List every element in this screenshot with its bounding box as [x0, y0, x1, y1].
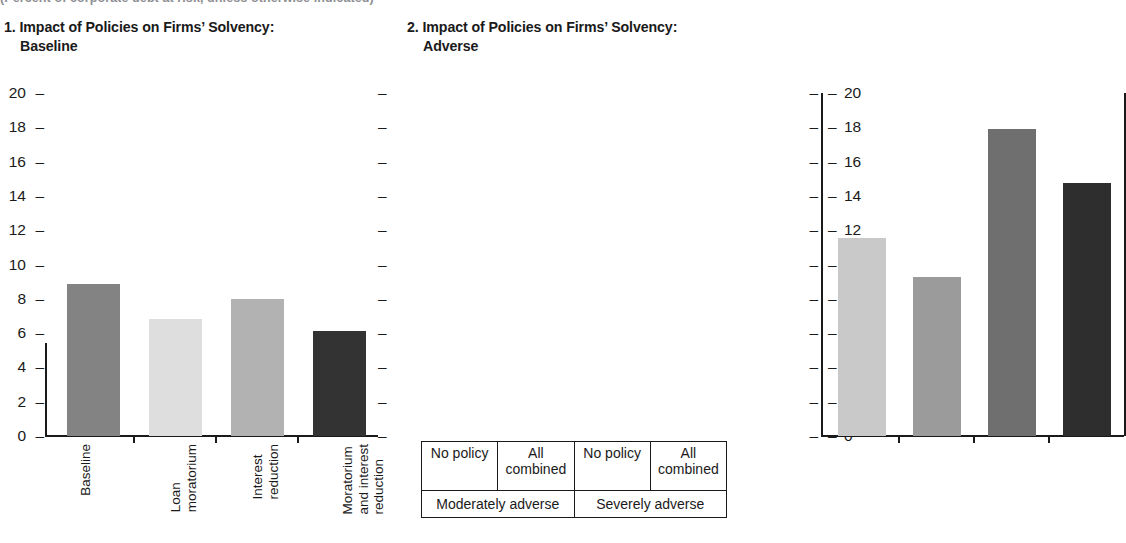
- y-tick-label: 16: [9, 154, 26, 170]
- label-table-row-categories: No policyAllcombinedNo policyAllcombined: [422, 442, 726, 490]
- y-tick-label: 4: [17, 360, 26, 376]
- label-table-category-line: All: [658, 445, 719, 461]
- y-tick-dash: –: [378, 360, 387, 376]
- y-tick-label: 12: [9, 222, 26, 238]
- y-tick-label: 20: [844, 85, 861, 101]
- y-tick-dash: –: [378, 154, 387, 170]
- y-tick-dash: –: [809, 222, 818, 238]
- label-table-category-line: No policy: [431, 445, 489, 461]
- category-label: Moratoriumand interestreduction: [340, 444, 387, 515]
- y-tick-label: 18: [844, 120, 861, 136]
- y-axis-line-left: [45, 343, 47, 436]
- category-label-line: Loan: [168, 444, 184, 512]
- y-axis-line-right-panel: [821, 93, 823, 436]
- y-tick-label: 14: [9, 188, 26, 204]
- y-tick-dash: –: [378, 188, 387, 204]
- y-tick-label: 20: [9, 85, 26, 101]
- label-table-category-cell: Allcombined: [497, 442, 573, 490]
- y-tick-label: 0: [17, 428, 26, 444]
- y-tick-dash: –: [809, 360, 818, 376]
- y-tick-label: 8: [17, 291, 26, 307]
- y-tick-label: 18: [9, 120, 26, 136]
- panel-2-title-number: 2.: [407, 19, 419, 35]
- y-tick-label: 2: [17, 394, 26, 410]
- y-tick-dash: –: [809, 120, 818, 136]
- y-tick-dash: –: [378, 394, 387, 410]
- category-label: Baseline: [78, 444, 94, 496]
- y-tick-dash: –: [378, 257, 387, 273]
- chart-panel-baseline: 1. Impact of Policies on Firms’ Solvency…: [0, 0, 400, 543]
- y-tick-dash: –: [378, 85, 387, 101]
- y-tick-dash: –: [828, 325, 837, 341]
- y-tick-dash: –: [378, 325, 387, 341]
- y-tick-dash: –: [828, 394, 837, 410]
- y-tick-dash: –: [35, 394, 44, 410]
- y-tick-dash: –: [35, 222, 44, 238]
- label-table-category-line: No policy: [583, 445, 641, 461]
- y-tick-dash: –: [809, 394, 818, 410]
- x-tick-mark: [215, 436, 217, 443]
- bar: [67, 284, 120, 436]
- panel-2-title-sub: Adverse: [407, 37, 782, 56]
- plot-area-adverse: ––––––––––– –0–2–4–6–8–10–12–14–16–18–20: [824, 93, 1124, 436]
- y-tick-dash: –: [35, 325, 44, 341]
- bar: [1063, 183, 1111, 436]
- category-label: Loanmoratorium: [168, 444, 199, 512]
- label-table-category-line: All: [506, 445, 567, 461]
- y-tick-dash: –: [828, 257, 837, 273]
- panel-2-title: 2. Impact of Policies on Firms’ Solvency…: [407, 18, 782, 56]
- label-table-category-cell: No policy: [422, 442, 497, 490]
- label-table-category-line: combined: [658, 461, 719, 477]
- label-table-category-line: combined: [506, 461, 567, 477]
- category-label-line: Moratorium: [340, 444, 356, 515]
- bar: [313, 331, 366, 436]
- y-tick-dash: –: [809, 325, 818, 341]
- x-tick-mark: [973, 436, 975, 443]
- y-tick-dash: –: [809, 154, 818, 170]
- y-tick-dash: –: [35, 85, 44, 101]
- y-tick-dash: –: [809, 428, 818, 444]
- y-tick-dash: –: [809, 85, 818, 101]
- panel-1-title: 1. Impact of Policies on Firms’ Solvency…: [4, 18, 384, 56]
- label-table-group-cell: Severely adverse: [574, 491, 727, 517]
- y-tick-dash: –: [35, 257, 44, 273]
- y-tick-dash: –: [35, 154, 44, 170]
- y-tick-dash: –: [35, 291, 44, 307]
- y-tick-dash: –: [828, 120, 837, 136]
- y-tick-dash: –: [809, 257, 818, 273]
- x-tick-mark: [1048, 436, 1050, 443]
- bar: [838, 238, 886, 436]
- category-label-line: Interest: [250, 444, 266, 500]
- y-tick-dash: –: [378, 291, 387, 307]
- x-tick-mark: [133, 436, 135, 443]
- label-table-category-cell: No policy: [574, 442, 650, 490]
- category-label-line: reduction: [371, 444, 387, 515]
- y-tick-dash: –: [35, 120, 44, 136]
- y-tick-dash: –: [378, 222, 387, 238]
- bar: [231, 299, 284, 436]
- bar: [988, 129, 1036, 436]
- category-label-line: reduction: [266, 444, 282, 500]
- y-tick-dash: –: [35, 188, 44, 204]
- panel-1-title-main: Impact of Policies on Firms’ Solvency:: [19, 19, 274, 35]
- panel-1-title-number: 1.: [4, 19, 16, 35]
- category-label: Interestreduction: [250, 444, 281, 500]
- y-tick-dash: –: [809, 291, 818, 307]
- x-axis-label-table-adverse: No policyAllcombinedNo policyAllcombined…: [421, 441, 727, 518]
- panel-2-title-main: Impact of Policies on Firms’ Solvency:: [422, 19, 677, 35]
- x-tick-mark: [898, 436, 900, 443]
- y-tick-dash: –: [828, 188, 837, 204]
- y-tick-dash: –: [828, 154, 837, 170]
- y-tick-dash: –: [828, 428, 837, 444]
- y-tick-dash: –: [828, 291, 837, 307]
- label-table-row-groups: Moderately adverseSeverely adverse: [422, 490, 726, 517]
- bar: [913, 277, 961, 436]
- y-tick-dash: –: [35, 360, 44, 376]
- category-label-line: moratorium: [184, 444, 200, 512]
- y-tick-dash: –: [378, 428, 387, 444]
- bar: [149, 319, 202, 436]
- y-tick-label: 14: [844, 188, 861, 204]
- y-tick-dash: –: [828, 85, 837, 101]
- y-tick-dash: –: [35, 428, 44, 444]
- x-tick-mark: [297, 436, 299, 443]
